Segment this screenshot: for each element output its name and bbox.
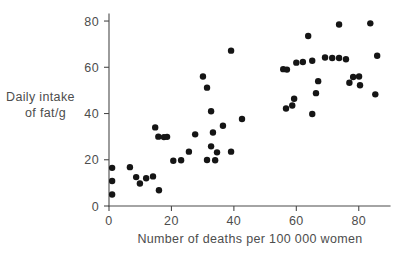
data-point — [228, 47, 234, 53]
data-point — [204, 157, 210, 163]
data-point — [336, 55, 342, 61]
data-point — [186, 148, 192, 154]
data-point — [356, 73, 362, 79]
y-tick-group — [104, 21, 109, 206]
data-point — [164, 134, 170, 140]
x-tick-label-40: 40 — [227, 214, 242, 228]
data-point — [109, 165, 115, 171]
x-tick-label-60: 60 — [289, 214, 304, 228]
data-point — [137, 180, 143, 186]
data-point — [208, 143, 214, 149]
data-point — [143, 175, 149, 181]
data-point — [133, 174, 139, 180]
scatter-plot-figure: 020406080 020406080 Number of deaths per… — [0, 0, 402, 255]
y-tick-label-40: 40 — [84, 107, 99, 121]
x-axis-title: Number of deaths per 100 000 women — [137, 232, 362, 246]
data-point — [350, 74, 356, 80]
data-point — [367, 20, 373, 26]
data-point — [200, 73, 206, 79]
data-point — [210, 129, 216, 135]
data-point — [305, 33, 311, 39]
data-point — [315, 78, 321, 84]
data-points-layer — [109, 20, 380, 197]
data-point — [283, 105, 289, 111]
y-axis-title-line1: Daily intake — [6, 90, 75, 104]
data-point — [156, 187, 162, 193]
y-tick-label-20: 20 — [84, 153, 99, 167]
data-point — [313, 90, 319, 96]
data-point — [220, 123, 226, 129]
data-point — [322, 54, 328, 60]
data-point — [300, 59, 306, 65]
data-point — [284, 66, 290, 72]
data-point — [214, 149, 220, 155]
plot-canvas: 020406080 020406080 Number of deaths per… — [0, 0, 402, 255]
data-point — [109, 178, 115, 184]
x-tick-label-0: 0 — [105, 214, 112, 228]
x-tick-label-20: 20 — [164, 214, 179, 228]
data-point — [293, 59, 299, 65]
data-point — [357, 82, 363, 88]
data-point — [150, 173, 156, 179]
x-tick-label-group: 020406080 — [105, 214, 366, 228]
data-point — [372, 91, 378, 97]
data-point — [208, 108, 214, 114]
x-tick-group — [109, 206, 359, 211]
data-point — [329, 55, 335, 61]
data-point — [170, 157, 176, 163]
data-point — [109, 191, 115, 197]
data-point — [346, 80, 352, 86]
data-point — [374, 53, 380, 59]
data-point — [178, 157, 184, 163]
data-point — [204, 84, 210, 90]
data-point — [291, 96, 297, 102]
data-point — [152, 124, 158, 130]
data-point — [228, 148, 234, 154]
data-point — [212, 157, 218, 163]
data-point — [289, 102, 295, 108]
data-point — [343, 56, 349, 62]
data-point — [309, 111, 315, 117]
data-point — [336, 21, 342, 27]
y-tick-label-group: 020406080 — [84, 15, 99, 214]
data-point — [192, 131, 198, 137]
y-tick-label-80: 80 — [84, 15, 99, 29]
y-tick-label-60: 60 — [84, 61, 99, 75]
y-tick-label-0: 0 — [92, 200, 99, 214]
x-tick-label-80: 80 — [351, 214, 366, 228]
data-point — [127, 164, 133, 170]
data-point — [239, 116, 245, 122]
y-axis-title-line2: of fat/g — [25, 106, 66, 120]
data-point — [309, 58, 315, 64]
data-point — [155, 133, 161, 139]
